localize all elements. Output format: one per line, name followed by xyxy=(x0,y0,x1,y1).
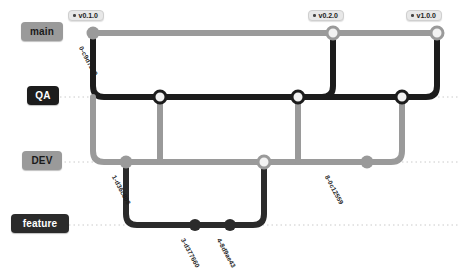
version-tag-text: v0.2.0 xyxy=(319,12,338,19)
commit-node-n-dev-0[interactable] xyxy=(120,156,133,169)
branch-edge-group xyxy=(93,33,437,225)
commit-node-n-qa-0[interactable] xyxy=(154,91,166,103)
branch-edge-e-main-to-qa xyxy=(93,33,402,97)
commit-node-n-dev-2[interactable] xyxy=(361,156,374,169)
version-tag-text: v1.0.0 xyxy=(417,12,436,19)
branch-edge-e-dev-to-feat xyxy=(126,162,264,225)
branch-edge-e-dev2-up-qa2 xyxy=(367,97,402,162)
commit-node-n-feat-1[interactable] xyxy=(224,219,236,231)
branch-label-text: DEV xyxy=(31,155,52,166)
branch-label-dev[interactable]: DEV xyxy=(22,151,62,170)
commit-node-n-feat-0[interactable] xyxy=(189,219,201,231)
version-tag-v0-2-0[interactable]: v0.2.0 xyxy=(308,10,344,21)
version-tag-text: v0.1.0 xyxy=(79,12,98,19)
branch-label-text: feature xyxy=(23,218,58,229)
version-tag-v1-0-0[interactable]: v1.0.0 xyxy=(406,10,442,21)
git-graph-canvas: mainQADEVfeature v0.1.0v0.2.0v1.0.0 0-c9… xyxy=(0,0,461,274)
branch-label-feature[interactable]: feature xyxy=(11,214,69,233)
version-tag-v0-1-0[interactable]: v0.1.0 xyxy=(68,10,104,21)
branch-edge-e-qa1-up-main xyxy=(298,33,333,97)
tag-bullet-icon xyxy=(313,14,316,17)
branch-label-text: main xyxy=(30,26,54,37)
tag-bullet-icon xyxy=(73,14,76,17)
commit-node-n-qa-1[interactable] xyxy=(292,91,304,103)
branch-edge-e-qa-to-dev-a xyxy=(93,97,367,162)
branch-label-text: QA xyxy=(35,90,50,101)
branch-graph-svg xyxy=(0,0,461,274)
commit-node-n-main-0[interactable] xyxy=(87,27,100,40)
commit-node-n-main-1[interactable] xyxy=(327,27,339,39)
commit-node-n-main-2[interactable] xyxy=(431,27,443,39)
commit-node-n-qa-2[interactable] xyxy=(396,91,408,103)
branch-edge-e-qa2-up-main2 xyxy=(402,33,437,97)
branch-label-qa[interactable]: QA xyxy=(27,86,59,105)
tag-bullet-icon xyxy=(411,14,414,17)
commit-node-n-dev-1[interactable] xyxy=(258,156,270,168)
branch-label-main[interactable]: main xyxy=(21,22,63,41)
